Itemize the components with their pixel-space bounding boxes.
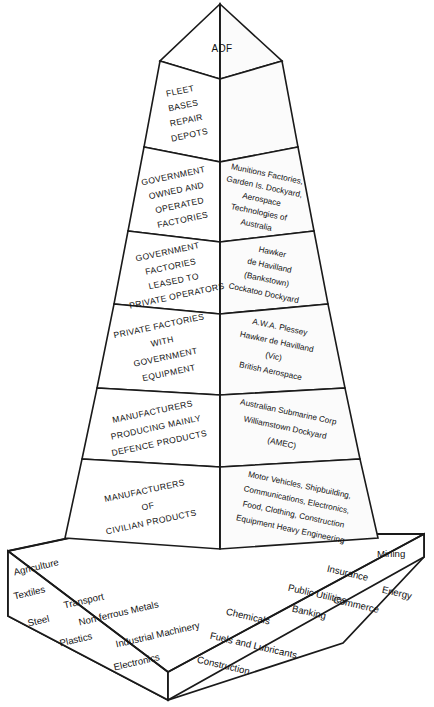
base-slab	[8, 534, 424, 700]
apex-label: ADF	[211, 43, 232, 54]
tier-3-right-face	[220, 231, 328, 314]
sector-mining: Mining	[377, 548, 405, 559]
tier-4-right-face	[220, 304, 345, 395]
tier-1-left-face	[144, 61, 220, 162]
defence-industry-pyramid: ADF FLEET BASES REPAIR DEPOTS GOVERNMENT…	[0, 0, 434, 707]
diagram-canvas: ADF FLEET BASES REPAIR DEPOTS GOVERNMENT…	[0, 0, 434, 707]
tier-1-right-face	[220, 61, 298, 162]
